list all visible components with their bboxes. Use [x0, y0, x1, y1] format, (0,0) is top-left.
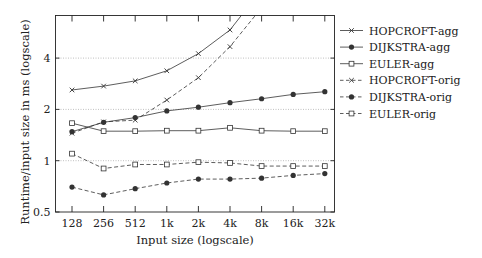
circle-marker-icon — [291, 92, 296, 97]
circle-marker-icon — [349, 45, 354, 50]
series-line-hopcroft-agg — [72, 0, 262, 90]
circle-marker-icon — [196, 176, 201, 181]
square-marker-icon — [196, 160, 201, 165]
x-tick-label: 128 — [62, 217, 83, 230]
grid-lines — [56, 58, 335, 161]
circle-marker-icon — [101, 192, 106, 197]
square-marker-icon — [322, 129, 327, 134]
legend-item-euler-agg: EULER-agg — [340, 58, 434, 71]
square-marker-icon — [164, 162, 169, 167]
circle-marker-icon — [291, 173, 296, 178]
y-tick-label: 2 — [44, 103, 51, 116]
y-tick-label: 1 — [44, 155, 51, 168]
legend-label: EULER-orig — [369, 108, 436, 121]
square-marker-icon — [291, 164, 296, 169]
square-marker-icon — [228, 161, 233, 166]
plot-frame — [56, 16, 335, 213]
circle-marker-icon — [259, 96, 264, 101]
square-marker-icon — [228, 125, 233, 130]
circle-marker-icon — [259, 176, 264, 181]
x-marker-icon — [228, 28, 233, 33]
x-tick-label: 16k — [283, 217, 304, 230]
x-marker-icon — [228, 44, 233, 49]
legend-item-dijkstra-agg: DIJKSTRA-agg — [340, 41, 450, 54]
circle-marker-icon — [227, 176, 232, 181]
x-marker-icon — [165, 68, 170, 73]
square-marker-icon — [101, 166, 106, 171]
legend-item-hopcroft-orig: HOPCROFT-orig — [340, 74, 460, 87]
circle-marker-icon — [133, 186, 138, 191]
legend: HOPCROFT-aggDIJKSTRA-aggEULER-aggHOPCROF… — [340, 25, 460, 121]
square-marker-icon — [70, 121, 75, 126]
series-line-dijkstra-agg — [72, 92, 325, 132]
legend-item-hopcroft-agg: HOPCROFT-agg — [340, 25, 459, 38]
square-marker-icon — [101, 129, 106, 134]
markers-layer — [69, 28, 327, 198]
series-layer — [72, 0, 325, 195]
square-marker-icon — [133, 129, 138, 134]
x-tick-label: 1k — [160, 217, 174, 230]
square-marker-icon — [349, 61, 354, 66]
y-tick-label: 4 — [44, 52, 51, 65]
chart: 1282565121k2k4k8k16k32k 0.5124 Input siz… — [0, 0, 482, 258]
x-marker-icon — [165, 98, 170, 103]
circle-marker-icon — [164, 108, 169, 113]
x-marker-icon — [196, 75, 201, 80]
circle-marker-icon — [196, 105, 201, 110]
legend-label: HOPCROFT-orig — [369, 74, 460, 87]
x-tick-label: 32k — [314, 217, 335, 230]
circle-marker-icon — [322, 89, 327, 94]
y-axis-label: Runtime/input size in ms (logscale) — [18, 19, 32, 224]
legend-item-dijkstra-orig: DIJKSTRA-orig — [340, 91, 452, 104]
square-marker-icon — [259, 164, 264, 169]
circle-marker-icon — [133, 115, 138, 120]
x-tick-label: 256 — [93, 217, 114, 230]
legend-label: DIJKSTRA-orig — [369, 91, 452, 104]
x-tick-label: 8k — [255, 217, 269, 230]
square-marker-icon — [322, 164, 327, 169]
y-tick-label: 0.5 — [33, 206, 51, 219]
circle-marker-icon — [322, 171, 327, 176]
square-marker-icon — [196, 128, 201, 133]
legend-label: DIJKSTRA-agg — [369, 41, 450, 54]
legend-item-euler-orig: EULER-orig — [340, 108, 436, 121]
x-tick-label: 2k — [192, 217, 206, 230]
circle-marker-icon — [349, 94, 354, 99]
circle-marker-icon — [69, 184, 74, 189]
circle-marker-icon — [164, 180, 169, 185]
legend-label: EULER-agg — [369, 58, 434, 71]
square-marker-icon — [259, 128, 264, 133]
square-marker-icon — [133, 162, 138, 167]
y-axis-ticks: 0.5124 — [33, 52, 335, 219]
x-tick-label: 512 — [125, 217, 146, 230]
x-tick-label: 4k — [223, 217, 237, 230]
square-marker-icon — [291, 129, 296, 134]
square-marker-icon — [164, 128, 169, 133]
square-marker-icon — [70, 151, 75, 156]
square-marker-icon — [349, 111, 354, 116]
x-marker-icon — [196, 51, 201, 56]
circle-marker-icon — [227, 100, 232, 105]
x-axis-label: Input size (logscale) — [136, 233, 254, 247]
legend-label: HOPCROFT-agg — [369, 25, 459, 38]
